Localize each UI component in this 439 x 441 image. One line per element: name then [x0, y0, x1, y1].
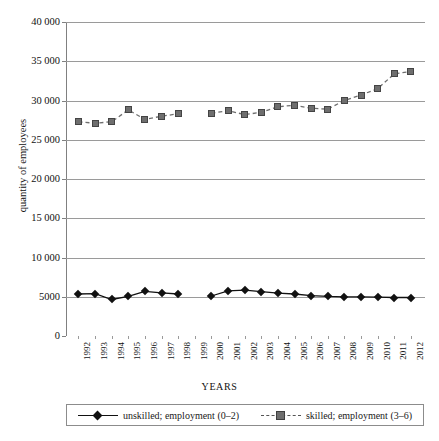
x-tick [112, 336, 113, 339]
data-point-skilled [274, 103, 281, 110]
x-tick [128, 336, 129, 339]
x-tick-label: 2011 [398, 342, 408, 360]
x-tick [411, 336, 412, 339]
legend-item-unskilled[interactable]: unskilled; employment (0–2) [78, 410, 239, 421]
y-tick-label: 10 000 [4, 253, 60, 263]
data-point-skilled [308, 105, 315, 112]
data-point-skilled [141, 116, 148, 123]
x-tick [261, 336, 262, 339]
x-tick [162, 336, 163, 339]
y-tick-label: 40 000 [4, 17, 60, 27]
data-point-skilled [208, 110, 215, 117]
x-tick [228, 336, 229, 339]
x-tick-label: 1992 [82, 342, 92, 360]
chart-legend: unskilled; employment (0–2) skilled; emp… [66, 404, 424, 426]
x-tick-label: 1999 [199, 342, 209, 360]
x-tick [344, 336, 345, 339]
x-tick [328, 336, 329, 339]
y-tick-label: 5000 [4, 292, 60, 302]
x-tick-label: 1995 [132, 342, 142, 360]
data-point-skilled [358, 92, 365, 99]
data-point-skilled [374, 85, 381, 92]
x-tick-label: 2004 [282, 342, 292, 360]
y-tick-label: 0 [4, 331, 60, 341]
x-tick [145, 336, 146, 339]
legend-label-skilled: skilled; employment (3–6) [306, 410, 412, 421]
x-tick-label: 1997 [166, 342, 176, 360]
x-tick [245, 336, 246, 339]
data-point-skilled [407, 68, 414, 75]
x-tick-label: 2009 [365, 342, 375, 360]
x-tick [178, 336, 179, 339]
x-tick-label: 2002 [249, 342, 259, 360]
x-tick-label: 1998 [182, 342, 192, 360]
square-marker-icon [261, 410, 301, 420]
x-tick [295, 336, 296, 339]
y-tick-label: 20 000 [4, 174, 60, 184]
y-tick-label: 30 000 [4, 96, 60, 106]
x-tick-label: 1994 [116, 342, 126, 360]
x-tick [378, 336, 379, 339]
x-tick-label: 2001 [232, 342, 242, 360]
x-tick-label: 2000 [215, 342, 225, 360]
data-point-skilled [75, 118, 82, 125]
plot-area: 0500010 00015 00020 00025 00030 00035 00… [66, 22, 425, 336]
x-tick [278, 336, 279, 339]
y-tick-label: 25 000 [4, 135, 60, 145]
x-tick [311, 336, 312, 339]
x-tick-label: 2006 [315, 342, 325, 360]
data-point-skilled [241, 111, 248, 118]
x-tick-label: 2003 [265, 342, 275, 360]
legend-label-unskilled: unskilled; employment (0–2) [123, 410, 239, 421]
y-tick-label: 35 000 [4, 56, 60, 66]
x-tick-label: 1993 [99, 342, 109, 360]
x-tick [78, 336, 79, 339]
y-tick [62, 336, 66, 337]
data-point-skilled [341, 97, 348, 104]
data-point-skilled [291, 102, 298, 109]
data-point-skilled [391, 70, 398, 77]
x-tick [195, 336, 196, 339]
data-point-skilled [125, 106, 132, 113]
x-tick [95, 336, 96, 339]
x-tick-label: 2008 [348, 342, 358, 360]
x-tick [211, 336, 212, 339]
x-tick-label: 2012 [415, 342, 425, 360]
x-tick-label: 1996 [149, 342, 159, 360]
data-point-skilled [225, 107, 232, 114]
x-tick [394, 336, 395, 339]
data-point-skilled [108, 118, 115, 125]
data-point-skilled [258, 109, 265, 116]
data-point-skilled [158, 113, 165, 120]
employment-line-chart: quantity of employees 0500010 00015 0002… [0, 0, 439, 441]
x-tick [361, 336, 362, 339]
data-point-skilled [175, 110, 182, 117]
data-point-skilled [324, 106, 331, 113]
x-tick-label: 2005 [299, 342, 309, 360]
legend-item-skilled[interactable]: skilled; employment (3–6) [261, 410, 412, 421]
x-tick-label: 2007 [332, 342, 342, 360]
y-tick-label: 15 000 [4, 213, 60, 223]
diamond-marker-icon [78, 410, 118, 420]
x-tick-label: 2010 [382, 342, 392, 360]
x-axis-title: YEARS [0, 381, 439, 392]
data-point-skilled [92, 120, 99, 127]
